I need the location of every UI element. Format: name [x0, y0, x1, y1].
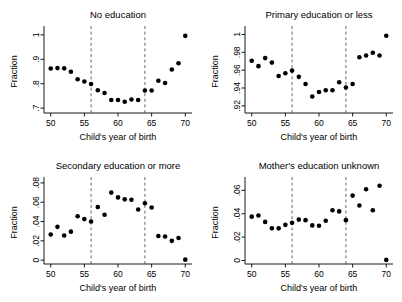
data-point — [323, 218, 328, 223]
data-point — [357, 55, 362, 60]
axis-lines — [245, 177, 393, 264]
data-point-series — [48, 190, 187, 262]
data-point — [55, 66, 60, 71]
data-point — [69, 229, 74, 234]
x-tick-label: 50 — [247, 269, 257, 279]
data-point-series — [249, 34, 388, 99]
data-point — [384, 258, 389, 263]
data-point — [249, 58, 254, 63]
data-point — [276, 74, 281, 79]
x-tick-label: 65 — [147, 118, 157, 128]
data-point — [122, 197, 127, 202]
panel-title: Mother's education unknown — [259, 160, 380, 171]
data-point — [48, 66, 53, 71]
data-point — [276, 226, 281, 231]
panel-title: No education — [90, 9, 146, 20]
x-tick-label: 55 — [281, 118, 291, 128]
y-tick-label: .92 — [232, 100, 242, 112]
data-point — [96, 205, 101, 210]
scatter-plot-secondary-education-or-more: Secondary education or more0.02.04.06.08… — [0, 151, 201, 302]
data-point — [317, 223, 322, 228]
data-point — [109, 98, 114, 103]
data-point — [116, 98, 121, 103]
data-point — [297, 217, 302, 222]
data-point — [337, 80, 342, 85]
x-tick-label: 50 — [247, 118, 257, 128]
data-point — [183, 257, 188, 262]
scatter-plot-no-education: No education.7.8.915055606570Child's yea… — [0, 0, 201, 151]
data-point — [270, 60, 275, 65]
data-point — [69, 69, 74, 74]
data-point — [357, 203, 362, 208]
y-axis-label: Fraction — [210, 206, 220, 239]
data-point — [323, 88, 328, 93]
data-point — [89, 82, 94, 87]
data-point — [310, 223, 315, 228]
data-point — [82, 79, 87, 84]
data-point — [256, 64, 261, 69]
scatter-plot-primary-education-or-less: Primary education or less.92.94.96.98150… — [201, 0, 402, 151]
data-point — [303, 218, 308, 223]
data-point — [330, 88, 335, 93]
y-tick-label: .8 — [31, 80, 41, 87]
scatter-plot-mothers-education-unknown: Mother's education unknown0.02.04.065055… — [201, 151, 402, 302]
data-point — [62, 66, 67, 71]
data-point — [290, 221, 295, 226]
y-tick-label: .04 — [232, 208, 242, 220]
x-tick-label: 60 — [113, 269, 123, 279]
y-tick-label: .04 — [31, 215, 41, 227]
data-point — [176, 61, 181, 66]
panel-primary-education-or-less: Primary education or less.92.94.96.98150… — [201, 0, 402, 151]
y-axis-label: Fraction — [210, 55, 220, 88]
data-point — [109, 190, 114, 195]
data-point — [344, 85, 349, 90]
data-point — [330, 208, 335, 213]
y-tick-label: 0 — [232, 258, 242, 263]
data-point — [143, 88, 148, 93]
x-axis-label: Child's year of birth — [80, 283, 157, 293]
data-point — [377, 53, 382, 58]
data-point-series — [249, 183, 388, 262]
y-tick-label: .06 — [31, 196, 41, 208]
data-point — [156, 234, 161, 239]
x-axis-label: Child's year of birth — [80, 132, 157, 142]
panel-secondary-education-or-more: Secondary education or more0.02.04.06.08… — [0, 151, 201, 302]
data-point — [102, 212, 107, 217]
data-point-series — [48, 34, 187, 105]
data-point — [48, 232, 53, 237]
data-point — [364, 53, 369, 58]
x-tick-label: 65 — [348, 118, 358, 128]
y-tick-label: .96 — [232, 64, 242, 76]
data-point — [102, 91, 107, 96]
data-point — [122, 99, 127, 104]
data-point — [263, 220, 268, 225]
x-tick-label: 70 — [181, 118, 191, 128]
panel-no-education: No education.7.8.915055606570Child's yea… — [0, 0, 201, 151]
y-tick-label: 1 — [31, 32, 41, 37]
x-tick-label: 70 — [382, 269, 392, 279]
x-tick-label: 50 — [46, 118, 56, 128]
x-tick-label: 70 — [181, 269, 191, 279]
data-point — [136, 98, 141, 103]
data-point — [149, 205, 154, 210]
data-point — [75, 214, 80, 219]
data-point — [163, 81, 168, 86]
data-point — [337, 209, 342, 214]
data-point — [317, 90, 322, 95]
data-point — [62, 233, 67, 238]
y-axis-label: Fraction — [9, 55, 19, 88]
y-tick-label: .02 — [232, 231, 242, 243]
data-point — [283, 71, 288, 76]
data-point — [297, 75, 302, 80]
data-point — [303, 82, 308, 87]
data-point — [270, 226, 275, 231]
data-point — [371, 208, 376, 213]
x-tick-label: 65 — [147, 269, 157, 279]
data-point — [156, 78, 161, 83]
data-point — [371, 50, 376, 55]
x-tick-label: 70 — [382, 118, 392, 128]
data-point — [170, 239, 175, 244]
data-point — [75, 77, 80, 82]
data-point — [82, 217, 87, 222]
data-point — [263, 56, 268, 61]
